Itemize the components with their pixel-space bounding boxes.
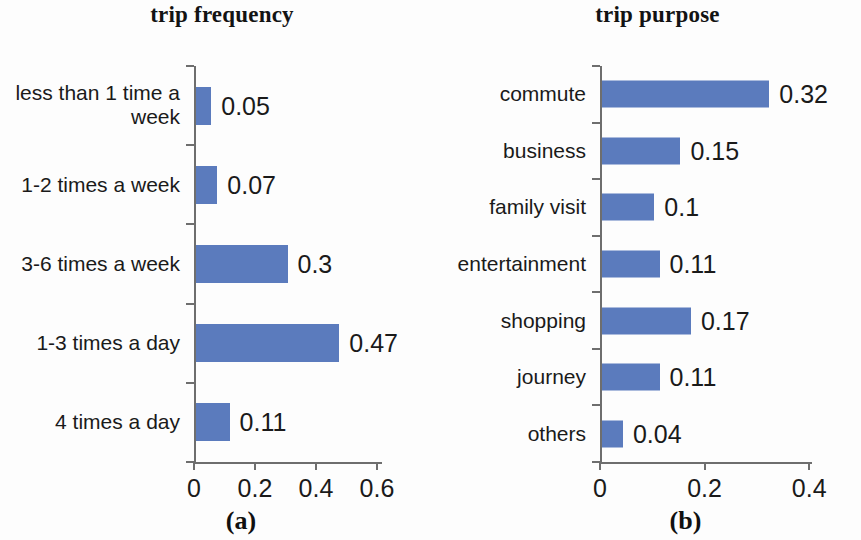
bar [602, 307, 691, 334]
category-label: others [430, 421, 586, 446]
plot-area-b: 00.20.4commute0.32business0.15family vis… [430, 60, 861, 470]
bar-row: commute0.32 [430, 66, 861, 123]
bar [196, 324, 339, 362]
bar-row: family visit0.1 [430, 179, 861, 236]
value-axis-tick-label-a: 0.6 [360, 474, 395, 503]
panel-a: trip frequency 00.20.40.6less than 1 tim… [0, 0, 430, 540]
bar [602, 250, 660, 277]
value-axis-tick-label-a: 0.4 [299, 474, 334, 503]
bar [602, 194, 654, 221]
value-axis-tick-label-b: 0 [593, 474, 607, 503]
category-label: less than 1 time a week [0, 81, 180, 131]
bar-value-label: 0.11 [240, 408, 287, 437]
bar-row: 4 times a day0.11 [0, 383, 430, 462]
bar [196, 87, 211, 125]
bar [196, 403, 230, 441]
figure-two-bar-charts: trip frequency 00.20.40.6less than 1 tim… [0, 0, 861, 540]
bar-row: less than 1 time a week0.05 [0, 66, 430, 145]
bar-row: entertainment0.11 [430, 236, 861, 293]
panel-caption-b: (b) [430, 506, 861, 536]
bar-value-label: 0.32 [779, 80, 828, 109]
category-label: shopping [430, 308, 586, 333]
category-label: entertainment [430, 252, 586, 277]
bar-value-label: 0.07 [227, 170, 276, 199]
bar-row: 3-6 times a week0.3 [0, 224, 430, 303]
panel-caption-a: (a) [0, 506, 430, 536]
bar-row: journey0.11 [430, 349, 861, 406]
bar [602, 364, 660, 391]
bar-row: shopping0.17 [430, 292, 861, 349]
value-axis-tick-a [254, 462, 256, 470]
bar-value-label: 0.1 [664, 193, 699, 222]
category-label: journey [430, 365, 586, 390]
bar [602, 137, 680, 164]
bar-value-label: 0.47 [349, 329, 398, 358]
value-axis-tick-label-b: 0.4 [792, 474, 827, 503]
category-label: business [430, 138, 586, 163]
bar-value-label: 0.17 [701, 306, 750, 335]
bar-row: business0.15 [430, 123, 861, 180]
category-label: 3-6 times a week [0, 252, 180, 277]
bar-row: others0.04 [430, 405, 861, 462]
value-axis-tick-label-a: 0.2 [238, 474, 273, 503]
value-axis-tick-b [599, 462, 601, 470]
value-axis-tick-label-b: 0.2 [687, 474, 722, 503]
category-label: family visit [430, 195, 586, 220]
value-axis-tick-b [808, 462, 810, 470]
bar [196, 245, 288, 283]
category-label: commute [430, 82, 586, 107]
plot-area-a: 00.20.40.6less than 1 time a week0.051-2… [0, 60, 430, 470]
bar [602, 420, 623, 447]
bar-value-label: 0.05 [221, 91, 270, 120]
value-axis-a [194, 462, 382, 464]
category-label: 1-2 times a week [0, 172, 180, 197]
bar-value-label: 0.3 [298, 249, 333, 278]
bar-row: 1-3 times a day0.47 [0, 304, 430, 383]
category-label: 1-3 times a day [0, 331, 180, 356]
value-axis-tick-label-a: 0 [187, 474, 201, 503]
value-axis-tick-b [704, 462, 706, 470]
chart-title-a: trip frequency [0, 2, 430, 28]
bar-value-label: 0.04 [633, 419, 682, 448]
panel-b: trip purpose 00.20.4commute0.32business0… [430, 0, 861, 540]
value-axis-tick-a [376, 462, 378, 470]
value-axis-tick-a [193, 462, 195, 470]
bar-value-label: 0.15 [690, 136, 739, 165]
value-axis-tick-a [315, 462, 317, 470]
bar [602, 81, 769, 108]
bar-row: 1-2 times a week0.07 [0, 145, 430, 224]
bar-value-label: 0.11 [670, 363, 717, 392]
category-label: 4 times a day [0, 410, 180, 435]
bar [196, 166, 217, 204]
bar-value-label: 0.11 [670, 249, 717, 278]
chart-title-b: trip purpose [430, 2, 861, 28]
value-axis-b [600, 462, 812, 464]
